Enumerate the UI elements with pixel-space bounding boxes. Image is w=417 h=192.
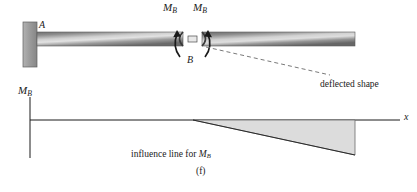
influence-y-axis-label: MB [18, 85, 32, 97]
moment-label-left: MB [163, 2, 177, 14]
hinge-connector [188, 36, 197, 42]
beam-segment-left [37, 32, 183, 46]
deflected-shape-label: deflected shape [320, 80, 379, 90]
influence-x-axis-label: x [404, 112, 408, 122]
hinge-label-b: B [187, 55, 193, 65]
beam-segment-right [202, 32, 355, 46]
influence-line-figure [0, 0, 417, 192]
moment-label-right: MB [193, 2, 207, 14]
influence-line-title: influence line for MB [131, 150, 211, 160]
support-label-a: A [39, 20, 45, 30]
figure-caption: (f) [196, 167, 206, 177]
deflected-shape-line [206, 47, 330, 75]
fixed-support-block [23, 22, 37, 67]
